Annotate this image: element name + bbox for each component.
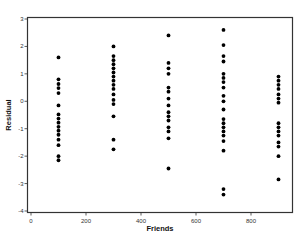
data-point	[112, 79, 116, 83]
y-axis-label: Residual	[4, 99, 13, 130]
data-point	[277, 154, 281, 158]
data-point	[222, 139, 226, 143]
data-point	[167, 72, 171, 76]
data-point	[57, 138, 61, 142]
data-point	[112, 87, 116, 91]
x-tick-label: 800	[246, 218, 257, 224]
data-point	[222, 134, 226, 138]
data-point	[57, 82, 61, 86]
y-tick-label: 0	[20, 98, 24, 104]
data-point	[112, 83, 116, 87]
data-point	[277, 101, 281, 105]
data-point	[112, 98, 116, 102]
data-point	[167, 136, 171, 140]
data-point	[277, 93, 281, 97]
data-point	[167, 125, 171, 129]
data-point	[167, 90, 171, 94]
data-point	[277, 130, 281, 134]
data-point	[167, 130, 171, 134]
data-point	[112, 54, 116, 58]
data-point	[57, 91, 61, 95]
y-tick-label: -2	[18, 153, 24, 159]
data-point	[222, 130, 226, 134]
data-point	[57, 154, 61, 158]
data-point	[222, 121, 226, 125]
data-point	[277, 121, 281, 125]
data-point	[57, 56, 61, 60]
data-point	[167, 66, 171, 70]
data-point	[222, 99, 226, 103]
data-point	[57, 104, 61, 108]
y-axis: -4-3-2-10123	[18, 16, 27, 214]
data-point	[222, 72, 226, 76]
data-point	[167, 34, 171, 38]
data-point	[112, 102, 116, 106]
scatter-chart: -4-3-2-10123 0200400600800 Friends Resid…	[0, 0, 303, 238]
data-point	[57, 113, 61, 117]
data-point	[57, 117, 61, 121]
data-point	[57, 158, 61, 162]
y-tick-label: 1	[20, 71, 24, 77]
y-tick-label: -1	[18, 126, 24, 132]
data-point	[222, 80, 226, 84]
y-tick-label: -4	[18, 208, 24, 214]
data-point	[222, 187, 226, 191]
data-point	[222, 125, 226, 129]
data-point	[112, 147, 116, 151]
data-point	[112, 66, 116, 70]
data-point	[277, 141, 281, 145]
data-point	[167, 61, 171, 65]
data-point	[57, 133, 61, 137]
data-point	[112, 62, 116, 66]
data-point	[277, 79, 281, 83]
data-point	[222, 117, 226, 121]
data-point	[277, 83, 281, 87]
data-point	[167, 86, 171, 90]
data-point	[112, 138, 116, 142]
x-tick-label: 0	[29, 218, 33, 224]
data-point	[112, 58, 116, 62]
x-tick-label: 200	[81, 218, 92, 224]
data-point	[57, 129, 61, 133]
data-point	[277, 134, 281, 138]
data-point	[112, 114, 116, 118]
y-tick-label: 2	[20, 43, 24, 49]
data-point	[277, 178, 281, 182]
plot-frame	[28, 18, 293, 213]
x-tick-label: 400	[136, 218, 147, 224]
data-point	[277, 125, 281, 129]
data-point	[167, 97, 171, 101]
data-point	[277, 97, 281, 101]
data-point	[57, 125, 61, 129]
data-point	[167, 167, 171, 171]
x-tick-label: 600	[191, 218, 202, 224]
data-point	[222, 149, 226, 153]
data-point	[222, 43, 226, 47]
data-point	[222, 94, 226, 98]
data-point	[112, 93, 116, 97]
data-point	[57, 86, 61, 90]
y-tick-label: -3	[18, 181, 24, 187]
data-point	[222, 54, 226, 58]
data-point	[167, 104, 171, 108]
data-point	[112, 75, 116, 79]
data-point	[167, 114, 171, 118]
data-point	[112, 71, 116, 75]
data-point	[222, 108, 226, 112]
data-point	[57, 143, 61, 147]
data-point	[277, 145, 281, 149]
data-point	[222, 86, 226, 90]
data-point	[167, 110, 171, 114]
data-point	[222, 60, 226, 64]
data-point	[277, 75, 281, 79]
data-point	[167, 119, 171, 123]
y-tick-label: 3	[20, 16, 24, 22]
data-point	[222, 28, 226, 32]
data-point	[57, 77, 61, 81]
x-axis: 0200400600800	[29, 213, 256, 224]
data-point	[222, 76, 226, 80]
data-point	[222, 193, 226, 197]
data-point	[277, 87, 281, 91]
x-axis-label: Friends	[146, 224, 173, 233]
data-point	[57, 121, 61, 125]
